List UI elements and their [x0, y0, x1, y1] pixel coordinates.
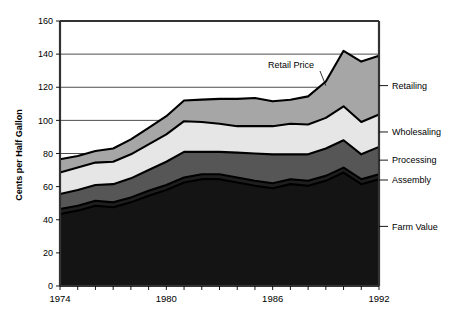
- stacked-area-chart: 020406080100120140160 1974198019861992 R…: [0, 0, 456, 327]
- y-tick-label: 80: [43, 149, 53, 159]
- annotation-retail-price: Retail Price: [268, 60, 314, 70]
- x-tick-label: 1974: [49, 293, 70, 304]
- series-label-farm-value: Farm Value: [392, 222, 438, 232]
- y-tick-label: 100: [38, 116, 53, 126]
- x-tick-label: 1986: [262, 293, 283, 304]
- y-tick-label: 160: [38, 16, 53, 26]
- x-tick-label: 1980: [156, 293, 177, 304]
- y-tick-label: 0: [48, 281, 53, 291]
- y-axis-title: Cents per Half Gallon: [14, 109, 24, 201]
- series-label-processing: Processing: [392, 155, 437, 165]
- y-tick-label: 20: [43, 248, 53, 258]
- series-label-assembly: Assembly: [392, 175, 432, 185]
- y-tick-label: 120: [38, 82, 53, 92]
- chart-canvas: 020406080100120140160 1974198019861992 R…: [0, 0, 456, 327]
- series-label-wholesaling: Wholesaling: [392, 127, 441, 137]
- x-tick-label: 1992: [368, 293, 389, 304]
- y-tick-label: 40: [43, 215, 53, 225]
- y-tick-label: 60: [43, 182, 53, 192]
- y-tick-label: 140: [38, 49, 53, 59]
- series-label-retailing: Retailing: [392, 81, 427, 91]
